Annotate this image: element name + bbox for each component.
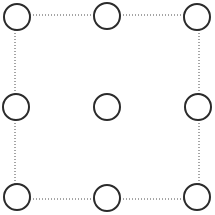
node-center[interactable]	[94, 94, 120, 120]
node-top-left[interactable]	[4, 4, 30, 30]
node-bottom-left[interactable]	[4, 184, 30, 210]
node-middle-right[interactable]	[185, 94, 211, 120]
figure-canvas	[0, 0, 215, 215]
node-top-center[interactable]	[94, 3, 120, 29]
node-bottom-right[interactable]	[184, 184, 210, 210]
node-bottom-center[interactable]	[94, 185, 120, 211]
node-middle-left[interactable]	[3, 94, 29, 120]
nine-point-dotted-square-diagram	[0, 0, 215, 215]
node-top-right[interactable]	[184, 4, 210, 30]
